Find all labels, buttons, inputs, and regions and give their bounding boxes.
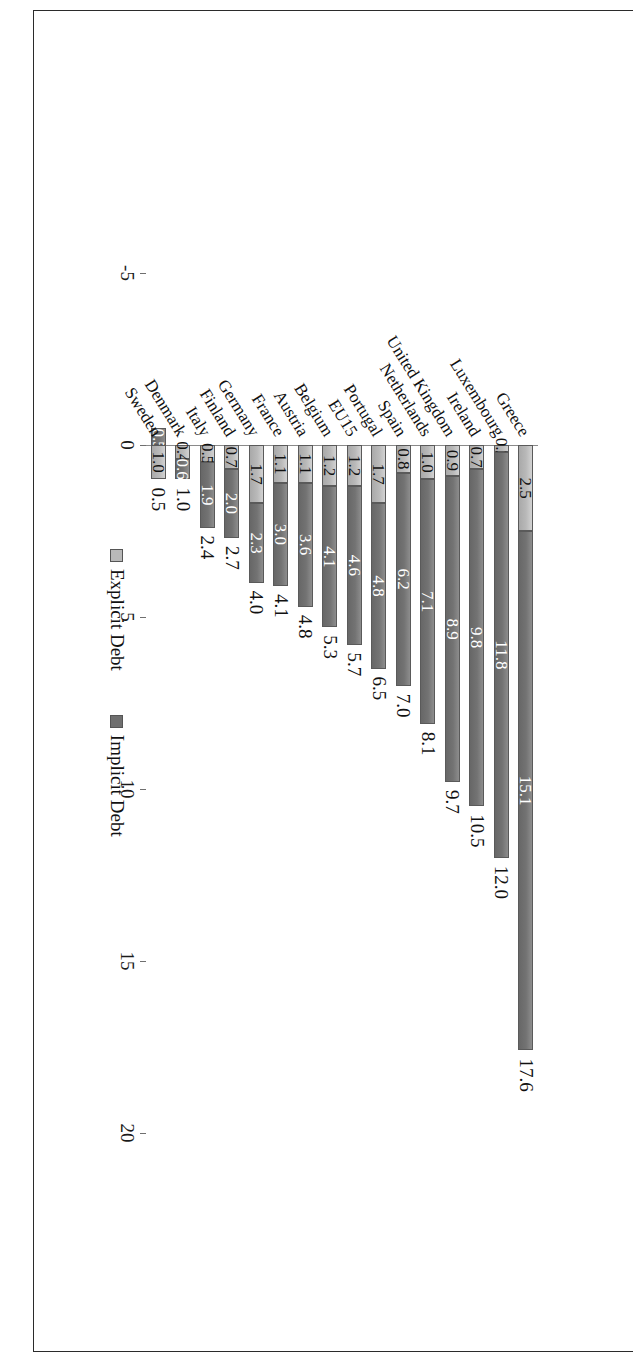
axis-tickmark [140, 445, 146, 446]
axis-tick-label: 15 [116, 952, 138, 971]
axis-tickmark [140, 273, 146, 274]
axis-tickmark [140, 617, 146, 618]
axis-tick-label: 0 [116, 440, 138, 450]
axis-tick-label: 20 [116, 1124, 138, 1143]
legend-label: Explicit Debt [106, 569, 128, 671]
legend-item[interactable]: Implicit Debt [106, 715, 128, 837]
axis-tickmark [140, 1133, 146, 1134]
chart-rotation-container: -505101520 2.515.117.60.211.812.00.79.81… [74, 161, 544, 1191]
plot-area: -505101520 2.515.117.60.211.812.00.79.81… [146, 273, 538, 1133]
chart-legend: Explicit DebtImplicit Debt [106, 549, 128, 837]
legend-label: Implicit Debt [106, 735, 128, 837]
legend-swatch-explicit [110, 549, 123, 562]
legend-swatch-implicit [110, 715, 123, 728]
axis-tick-label: -5 [116, 265, 138, 281]
axis-tickmark [140, 961, 146, 962]
axis-gridline [146, 1133, 538, 1134]
legend-item[interactable]: Explicit Debt [106, 549, 128, 671]
axis-tickmark [140, 789, 146, 790]
stacked-bar-chart: -505101520 2.515.117.60.211.812.00.79.81… [74, 161, 544, 1191]
category-labels: GreeceLuxembourgIrelandUnited KingdomNet… [146, 273, 538, 1133]
